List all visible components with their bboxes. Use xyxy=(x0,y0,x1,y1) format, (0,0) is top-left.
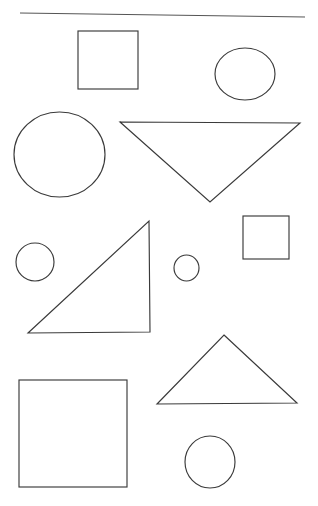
shape-svg-root: Horizontal ruleSquareCircleLarge circleI… xyxy=(0,0,318,506)
shape-sheet-canvas: Horizontal ruleSquareCircleLarge circleI… xyxy=(0,0,318,506)
canvas-background xyxy=(0,0,318,506)
